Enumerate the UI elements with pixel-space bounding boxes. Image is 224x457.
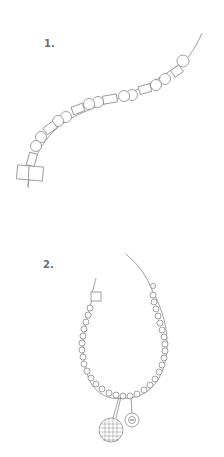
step-2-necklace (79, 254, 168, 442)
step-1-bead-strand (16, 33, 202, 188)
mesh-pendant (99, 418, 123, 442)
illustration (0, 0, 224, 457)
